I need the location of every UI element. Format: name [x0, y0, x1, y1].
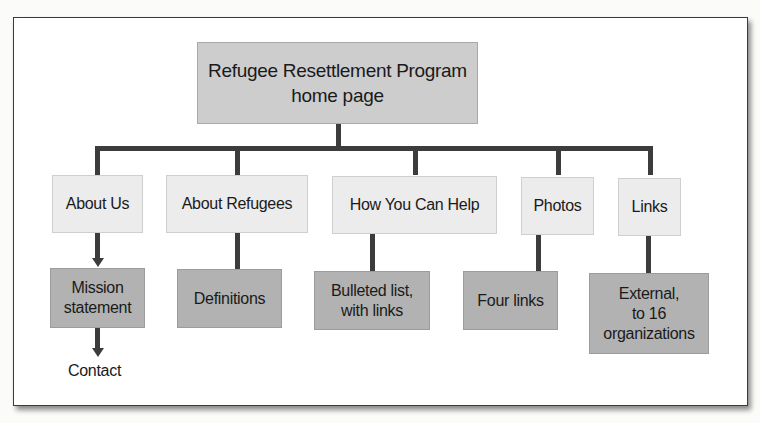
root-node-home-page: Refugee Resettlement Program home page: [197, 42, 478, 124]
node-contact-label: Contact: [68, 362, 121, 380]
node-bulleted-list-line1: Bulleted list,: [331, 281, 413, 301]
root-label-line1: Refugee Resettlement Program: [208, 58, 467, 83]
connector-links-to-external: [646, 236, 651, 273]
connector-mission-to-contact: [95, 328, 100, 350]
node-external-links-line1: External,: [619, 284, 679, 304]
root-label-line2: home page: [291, 83, 383, 108]
node-photos: Photos: [521, 177, 594, 235]
node-about-refugees-label: About Refugees: [182, 195, 293, 213]
node-bulleted-list-line2: with links: [341, 301, 403, 321]
connector-horizontal-bar: [95, 146, 653, 151]
node-mission-statement: Mission statement: [50, 268, 145, 328]
node-external-links: External, to 16 organizations: [589, 273, 709, 354]
connector-links: [648, 146, 653, 175]
node-about-us-label: About Us: [66, 195, 129, 213]
node-external-links-line2: to 16: [632, 304, 666, 324]
node-about-refugees: About Refugees: [166, 175, 308, 233]
connector-about-refugees-to-definitions: [235, 233, 240, 269]
connector-about-us-to-mission: [95, 233, 100, 259]
node-links-label: Links: [632, 198, 668, 216]
node-links: Links: [618, 178, 681, 236]
node-external-links-line3: organizations: [603, 324, 694, 344]
connector-help-to-bulleted: [370, 234, 375, 271]
node-bulleted-list: Bulleted list, with links: [314, 271, 430, 330]
connector-photos: [556, 146, 561, 175]
node-four-links-label: Four links: [477, 291, 543, 311]
node-mission-statement-line1: Mission: [71, 278, 123, 298]
connector-about-refugees: [235, 146, 240, 175]
arrow-down-icon: [92, 258, 104, 267]
node-about-us: About Us: [52, 175, 143, 233]
node-mission-statement-line2: statement: [64, 298, 132, 318]
node-definitions: Definitions: [177, 269, 282, 328]
connector-about-us: [95, 146, 100, 175]
node-four-links: Four links: [463, 271, 558, 330]
node-definitions-label: Definitions: [194, 289, 265, 309]
node-how-you-can-help-label: How You Can Help: [350, 196, 480, 214]
connector-how-you-can-help: [413, 146, 418, 175]
node-how-you-can-help: How You Can Help: [332, 176, 497, 234]
node-photos-label: Photos: [533, 197, 581, 215]
connector-photos-to-four-links: [536, 235, 541, 271]
arrow-down-icon: [92, 348, 104, 357]
